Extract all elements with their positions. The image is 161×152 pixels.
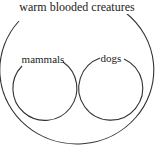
euler-diagram: warm blooded creatures mammals dogs [0,0,161,152]
set-dogs: dogs [79,52,143,120]
set-warm-blooded-creatures: warm blooded creatures [0,0,154,144]
mammals-label: mammals [22,53,65,65]
outer-label: warm blooded creatures [19,0,135,14]
dogs-label: dogs [101,52,122,64]
outer-circle [0,13,154,144]
set-mammals: mammals [13,53,77,120]
mammals-circle [13,62,77,120]
dogs-circle [79,58,143,120]
